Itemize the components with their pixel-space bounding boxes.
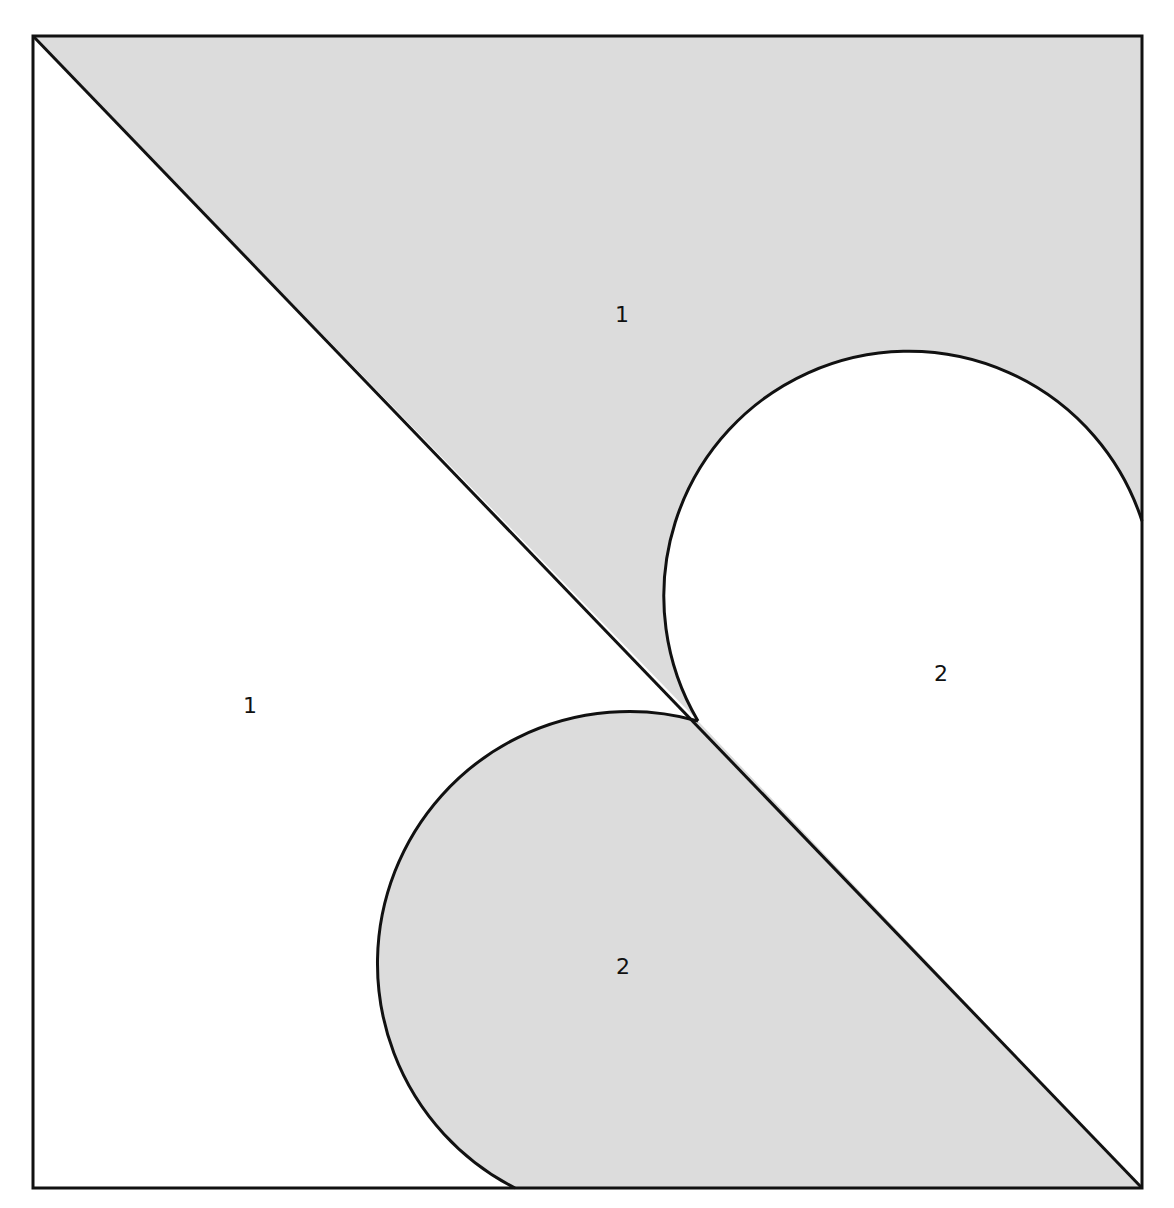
label-bottom-arc-region: 2 <box>616 954 630 979</box>
label-upper-shaded: 1 <box>615 302 629 327</box>
geometry-diagram: 1 1 2 2 <box>0 0 1174 1208</box>
label-right-arc-region: 2 <box>934 661 948 686</box>
label-left-unshaded: 1 <box>243 693 257 718</box>
